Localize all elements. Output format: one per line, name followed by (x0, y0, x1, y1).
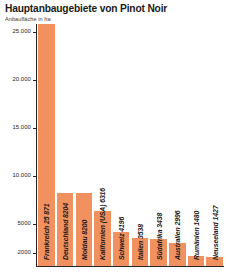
bar: Italien 3538 (132, 238, 149, 266)
y-axis-tick-label: 10.000 (12, 172, 31, 178)
y-axis-tick (33, 32, 36, 33)
bar-series: Frankreich 25 871Deutschland 8204Moldau … (37, 24, 224, 266)
y-axis-tick (33, 224, 36, 225)
y-axis-tick-label: 25.000 (12, 28, 31, 34)
bar: Schweiz 4196 (113, 232, 130, 266)
pinot-noir-bar-chart: Hauptanbaugebiete von Pinot Noir Anbaufl… (0, 0, 228, 279)
bar: Südafrika 3438 (150, 239, 167, 266)
bar-label: Frankreich 25 871 (44, 203, 51, 260)
bar-label: Südafrika 3438 (156, 213, 163, 260)
bar-label: Deutschland 8204 (62, 203, 69, 260)
bar: Moldau 8200 (76, 193, 93, 266)
plot-area: Frankreich 25 871Deutschland 8204Moldau … (36, 24, 224, 267)
chart-title: Hauptanbaugebiete von Pinot Noir (5, 3, 167, 14)
y-axis-tick-label: 15.000 (12, 124, 31, 130)
bar-label: Rumänien 1480 (193, 211, 200, 260)
chart-subtitle: Anbaufläche in ha (5, 16, 51, 22)
bar: Kalifornien (USA) 6316 (94, 211, 111, 266)
bar: Rumänien 1480 (188, 256, 205, 266)
bar-label: Australien 2996 (174, 211, 181, 260)
bar: Australien 2996 (169, 243, 186, 266)
bar: Frankreich 25 871 (38, 24, 55, 266)
y-axis-tick (33, 80, 36, 81)
y-axis-tick-label: 2000 (17, 249, 31, 255)
x-axis-line (36, 266, 224, 267)
bar-label: Kalifornien (USA) 6316 (100, 188, 107, 260)
y-axis-tick-label: 20.000 (12, 76, 31, 82)
bar-label: Neuseeland 1427 (212, 206, 219, 260)
y-axis-tick-label: 5000 (17, 220, 31, 226)
y-axis-tick-labels: 2000500010.00015.00020.00025.000 (0, 24, 31, 267)
bar: Deutschland 8204 (57, 193, 74, 266)
y-axis-tick (33, 253, 36, 254)
bar: Neuseeland 1427 (206, 257, 223, 266)
y-axis-tick (33, 176, 36, 177)
bar-label: Schweiz 4196 (118, 217, 125, 260)
bar-label: Moldau 8200 (81, 220, 88, 260)
y-axis-tick (33, 128, 36, 129)
bar-label: Italien 3538 (137, 224, 144, 260)
